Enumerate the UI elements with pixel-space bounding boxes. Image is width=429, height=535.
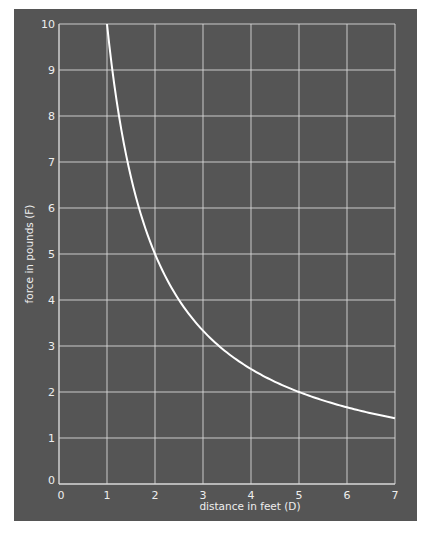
force-distance-chart: 012345678910 01234567 force in pounds (F… [0, 0, 429, 535]
y-tick-label: 5 [48, 248, 55, 261]
y-tick-label: 9 [48, 64, 55, 77]
y-tick-label: 0 [48, 474, 55, 487]
grid-lines [59, 24, 395, 484]
y-tick-label: 6 [48, 202, 55, 215]
y-tick-label: 2 [48, 386, 55, 399]
x-tick-label: 2 [152, 489, 159, 502]
x-tick-label: 1 [104, 489, 111, 502]
y-axis-ticks: 012345678910 [41, 18, 55, 487]
y-axis-label: force in pounds (F) [23, 205, 35, 304]
y-tick-label: 1 [48, 432, 55, 445]
x-tick-label: 7 [392, 489, 399, 502]
y-tick-label: 4 [48, 294, 55, 307]
x-tick-label: 0 [58, 489, 65, 502]
y-tick-label: 10 [41, 18, 55, 31]
x-tick-label: 6 [344, 489, 351, 502]
y-tick-label: 8 [48, 110, 55, 123]
y-tick-label: 3 [48, 340, 55, 353]
x-axis-label: distance in feet (D) [199, 500, 300, 512]
y-tick-label: 7 [48, 156, 55, 169]
